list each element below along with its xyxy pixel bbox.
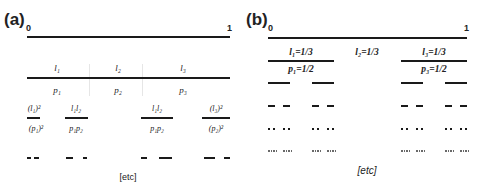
panel-a-unit-interval — [27, 36, 230, 38]
panel-b-unit-interval — [268, 37, 467, 39]
panel-a-l3-label: l₃ — [180, 63, 186, 73]
panel-a-start-label: 0 — [26, 23, 31, 33]
panel-b-p1-label: p₁=1/2 — [288, 64, 314, 74]
panel-b-level3-seg — [460, 105, 467, 107]
panel-a-p2-label: p₂ — [114, 85, 122, 95]
panel-b-level2-seg — [401, 82, 423, 84]
panel-a-level3-seg — [224, 157, 230, 159]
panel-a-level2-top-4: (l₃)² — [210, 104, 223, 113]
panel-a-p1-label: p₁ — [53, 85, 61, 95]
panel-a-level2-seg-2 — [65, 117, 88, 119]
panel-a-etc-label: [etc] — [119, 172, 136, 182]
panel-a-level2-bottom-1: (p₁)² — [29, 124, 44, 133]
panel-a-level3-seg — [159, 157, 172, 159]
panel-b-level3-seg — [268, 105, 275, 107]
panel-b-level3-seg — [416, 105, 423, 107]
panel-b-level2-seg — [312, 82, 334, 84]
panel-b-level1-seg-3 — [401, 60, 467, 62]
panel-b-level1-seg-1 — [268, 60, 334, 62]
panel-b-level3-seg — [312, 105, 319, 107]
panel-b-level3-seg — [283, 105, 290, 107]
panel-b-p3-label: p₃=1/2 — [421, 64, 447, 74]
panel-a-level2-seg-4 — [202, 117, 230, 119]
panel-b-start-label: 0 — [268, 23, 273, 33]
panel-a-level2-bottom-3: p₁p₂ — [150, 124, 164, 133]
panel-b-l3-label: l₃=1/3 — [422, 47, 446, 57]
panel-b-level2-seg — [268, 82, 290, 84]
panel-a-level2-bottom-4: (p₂)² — [209, 124, 224, 133]
panel-b-etc-label: [etc] — [358, 165, 377, 176]
panel-b-level3-seg — [327, 105, 334, 107]
panel-a-level2-seg-1 — [27, 117, 40, 119]
panel-b-l2-label: l₂=1/3 — [355, 47, 379, 57]
panel-a-divider-1 — [89, 64, 90, 96]
panel-b-level2-seg — [445, 82, 467, 84]
panel-b-label: (b) — [246, 10, 268, 30]
panel-a-level3-seg — [66, 157, 73, 159]
panel-a-level2-top-3: l₁l₂ — [152, 104, 162, 113]
panel-b-l1-label: l₁=1/3 — [289, 47, 313, 57]
panel-a-level1-line — [27, 77, 230, 79]
panel-a-level2-bottom-2: p₁p₂ — [69, 124, 83, 133]
panel-a-level2-top-2: l₁l₂ — [71, 104, 81, 113]
panel-a-p3-label: p₃ — [179, 85, 187, 95]
panel-a-level3-seg — [27, 157, 31, 159]
panel-a-label: (a) — [4, 10, 25, 30]
panel-b-level3-seg — [445, 105, 452, 107]
panel-a-divider-2 — [142, 64, 143, 96]
panel-a-level3-seg — [141, 157, 147, 159]
panel-a-level3-seg — [204, 157, 215, 159]
panel-a-l2-label: l₂ — [115, 63, 121, 73]
panel-a-level3-seg — [34, 157, 39, 159]
panel-b-level3-seg — [401, 105, 408, 107]
panel-a-end-label: 1 — [227, 23, 232, 33]
panel-a-level2-top-1: (l₁)² — [28, 104, 41, 113]
panel-a-l1-label: l₁ — [54, 63, 60, 73]
panel-a-level2-seg-3 — [141, 117, 173, 119]
panel-b-end-label: 1 — [464, 23, 469, 33]
panel-a-level3-seg — [83, 157, 87, 159]
